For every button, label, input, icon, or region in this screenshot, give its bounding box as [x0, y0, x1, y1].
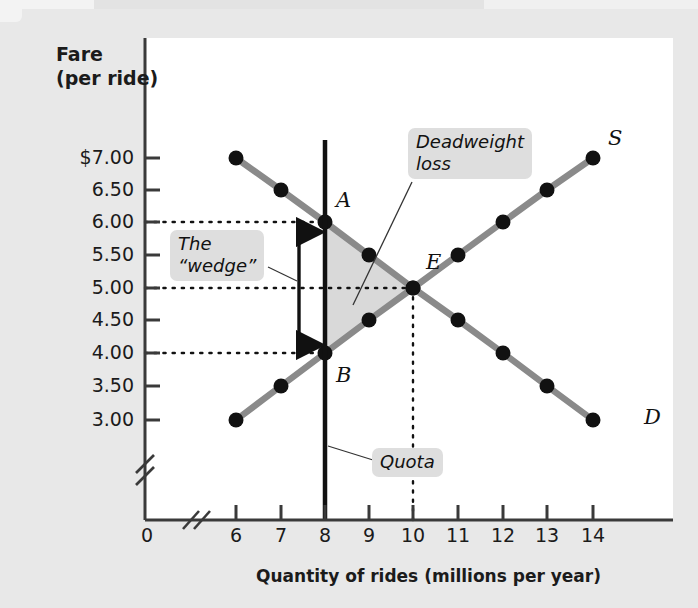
supply-demand-quota-chart: Fare (per ride) Quantity of rides (milli… — [0, 0, 698, 608]
callout-wedge-line1: The — [178, 233, 256, 255]
point-label-e: E — [426, 250, 441, 274]
x-tick-label-13: 13 — [527, 524, 567, 546]
x-axis-title: Quantity of rides (millions per year) — [256, 566, 601, 586]
callout-deadweight-line1: Deadweight — [416, 131, 524, 153]
x-tick-label-14: 14 — [573, 524, 613, 546]
x-tick-label-9: 9 — [349, 524, 389, 546]
callout-deadweight-line2: loss — [416, 153, 524, 175]
callout-deadweight-loss: Deadweight loss — [408, 128, 532, 179]
point-label-a: A — [336, 188, 351, 212]
callout-wedge: The “wedge” — [170, 230, 264, 281]
y-axis-title-line2: (per ride) — [56, 66, 158, 90]
y-tick-label-400: 4.00 — [38, 341, 134, 363]
callout-quota: Quota — [372, 448, 443, 477]
y-tick-label-350: 3.50 — [38, 374, 134, 396]
x-tick-label-7: 7 — [261, 524, 301, 546]
curve-label-demand: D — [644, 405, 661, 429]
x-tick-label-8: 8 — [305, 524, 345, 546]
y-axis-title-line1: Fare — [56, 42, 158, 66]
y-tick-label-600: 6.00 — [38, 210, 134, 232]
curve-label-supply: S — [608, 126, 622, 150]
y-tick-label-700: $7.00 — [38, 146, 134, 168]
y-tick-label-500: 5.00 — [38, 276, 134, 298]
chart-canvas — [0, 0, 698, 608]
y-tick-label-450: 4.50 — [38, 308, 134, 330]
callout-wedge-line2: “wedge” — [178, 255, 256, 277]
origin-label: 0 — [127, 524, 167, 546]
x-tick-label-11: 11 — [438, 524, 478, 546]
x-tick-label-10: 10 — [393, 524, 433, 546]
y-axis-title: Fare (per ride) — [56, 42, 158, 90]
x-tick-label-12: 12 — [483, 524, 523, 546]
y-tick-label-650: 6.50 — [38, 178, 134, 200]
y-tick-label-300: 3.00 — [38, 408, 134, 430]
point-label-b: B — [336, 363, 351, 387]
x-tick-label-6: 6 — [216, 524, 256, 546]
y-tick-label-550: 5.50 — [38, 243, 134, 265]
